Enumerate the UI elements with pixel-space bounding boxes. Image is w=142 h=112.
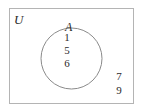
element-inside-1: 1 — [54, 32, 80, 43]
venn-diagram: U A 1 5 6 7 9 — [0, 0, 142, 112]
element-inside-3: 6 — [54, 58, 80, 69]
outside-elements: 7 9 — [110, 71, 128, 99]
element-outside-1: 7 — [110, 71, 128, 82]
element-inside-2: 5 — [54, 45, 80, 56]
set-a-elements: 1 5 6 — [54, 32, 80, 71]
universe-label: U — [14, 13, 23, 26]
element-outside-2: 9 — [110, 85, 128, 96]
